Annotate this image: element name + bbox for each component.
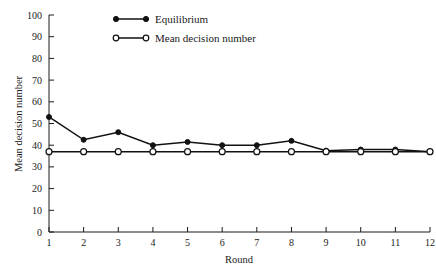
y-tick-label-50: 50 (32, 118, 42, 129)
legend: Equilibrium Mean decision number (113, 13, 256, 44)
y-tick-label-80: 80 (32, 53, 42, 64)
datapoint-mean-decision-number-round-11 (392, 149, 398, 155)
x-tick-label-8: 8 (289, 237, 294, 248)
y-tick-label-100: 100 (27, 10, 42, 21)
y-tick-label-10: 10 (32, 205, 42, 216)
datapoint-equilibrium-round-8 (289, 138, 294, 143)
legend-marker-mean-start (113, 35, 119, 41)
datapoint-mean-decision-number-round-12 (427, 149, 433, 155)
y-tick-label-60: 60 (32, 96, 42, 107)
datapoint-mean-decision-number-round-6 (219, 149, 225, 155)
datapoint-equilibrium-round-7 (254, 143, 259, 148)
datapoint-mean-decision-number-round-1 (46, 149, 52, 155)
legend-item-mean-decision-number[interactable]: Mean decision number (113, 32, 256, 44)
legend-marker-mean-end (143, 35, 149, 41)
legend-label-equilibrium: Equilibrium (155, 13, 209, 25)
x-tick-label-5: 5 (185, 237, 190, 248)
legend-label-mean-decision-number: Mean decision number (155, 32, 256, 44)
datapoint-equilibrium-round-2 (81, 137, 86, 142)
datapoint-mean-decision-number-round-10 (358, 149, 364, 155)
y-axis-tick-labels: 0102030405060708090100 (27, 10, 42, 238)
x-tick-label-7: 7 (254, 237, 259, 248)
series-equilibrium (47, 114, 433, 154)
x-tick-label-11: 11 (391, 237, 401, 248)
x-tick-label-6: 6 (220, 237, 225, 248)
y-tick-label-20: 20 (32, 183, 42, 194)
x-tick-label-4: 4 (150, 237, 155, 248)
x-axis-ticks (49, 227, 430, 232)
x-tick-label-12: 12 (425, 237, 435, 248)
x-axis-title: Round (225, 254, 254, 265)
datapoint-mean-decision-number-round-3 (115, 149, 121, 155)
y-tick-label-0: 0 (37, 227, 42, 238)
datapoint-mean-decision-number-round-8 (288, 149, 294, 155)
chart-container: 0102030405060708090100 123456789101112 E… (0, 0, 436, 274)
y-tick-label-90: 90 (32, 31, 42, 42)
datapoint-mean-decision-number-round-2 (81, 149, 87, 155)
series-line-equilibrium (49, 117, 430, 152)
x-tick-label-10: 10 (356, 237, 366, 248)
datapoint-equilibrium-round-3 (116, 130, 121, 135)
x-axis-tick-labels: 123456789101112 (47, 237, 436, 248)
x-tick-label-2: 2 (81, 237, 86, 248)
y-tick-label-30: 30 (32, 161, 42, 172)
datapoint-mean-decision-number-round-5 (185, 149, 191, 155)
datapoint-mean-decision-number-round-7 (254, 149, 260, 155)
datapoint-equilibrium-round-4 (150, 143, 155, 148)
y-axis-title: Mean decision number (13, 75, 24, 172)
series-layer (46, 114, 433, 154)
y-axis-ticks (49, 15, 54, 232)
datapoint-mean-decision-number-round-9 (323, 149, 329, 155)
x-tick-label-9: 9 (324, 237, 329, 248)
y-tick-label-70: 70 (32, 75, 42, 86)
legend-marker-equilibrium-start (113, 16, 118, 21)
datapoint-equilibrium-round-6 (220, 143, 225, 148)
line-chart: 0102030405060708090100 123456789101112 E… (0, 0, 436, 274)
x-tick-label-1: 1 (47, 237, 52, 248)
legend-marker-equilibrium-end (143, 16, 148, 21)
legend-item-equilibrium[interactable]: Equilibrium (113, 13, 208, 25)
x-tick-label-3: 3 (116, 237, 121, 248)
datapoint-equilibrium-round-5 (185, 139, 190, 144)
datapoint-mean-decision-number-round-4 (150, 149, 156, 155)
y-tick-label-40: 40 (32, 140, 42, 151)
datapoint-equilibrium-round-1 (47, 114, 52, 119)
